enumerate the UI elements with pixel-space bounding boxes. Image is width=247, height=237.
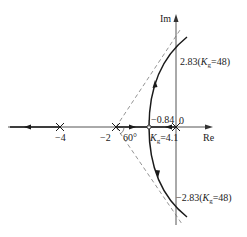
pole-label-0: 0 [179,115,184,126]
real-axis-arrow-icon [205,125,213,130]
lower-crossing-label: −2.83(Kg=48) [176,192,232,205]
breakaway-gain-label: Kg=4.1 [149,132,178,145]
imag-axis-label: Im [160,13,171,24]
angle-label: 60° [123,132,137,143]
root-locus-diagram: Im Re 0 −2 −4 60° −0.84 Kg=4.1 2.83(Kg=4… [0,0,247,237]
breakaway-label: −0.84 [151,114,174,125]
pole-label-minus4: −4 [55,132,66,143]
pole-label-minus2: −2 [100,132,111,143]
real-axis-label: Re [203,132,215,143]
locus-arrow-left-icon [24,125,31,130]
locus-arrow-left2-icon [165,125,172,130]
asymptote-upper [116,30,180,127]
upper-crossing-label: 2.83(Kg=48) [180,56,230,69]
locus-arrow-right-icon [129,125,136,130]
imag-axis-arrow-icon [174,14,179,22]
